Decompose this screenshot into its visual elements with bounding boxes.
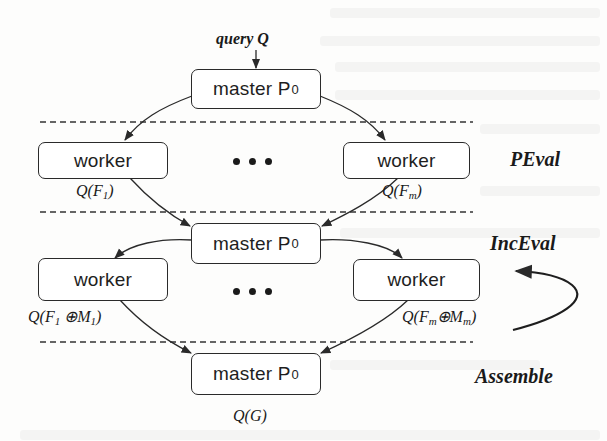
- edge-label-q-f1-m1: Q(F1 ⊕M1): [28, 307, 101, 327]
- grape-workflow-diagram: query Q master P0 worker worker PEval Q(…: [0, 0, 607, 441]
- edge-label-q-fm: Q(Fm): [382, 182, 422, 201]
- label-subscript: m: [463, 315, 471, 327]
- master-subscript: 0: [292, 367, 299, 382]
- label-subscript: m: [409, 189, 417, 201]
- edge-master-mid-to-worker-right: [320, 240, 402, 258]
- worker-label: worker: [74, 269, 132, 291]
- worker-label: worker: [74, 150, 132, 172]
- edge-master-mid-to-worker-left: [115, 240, 192, 258]
- ellipsis-inceval: [233, 288, 272, 295]
- label-suffix: ): [471, 308, 476, 325]
- edge-master-to-worker-right: [320, 96, 385, 140]
- edge-inc-worker-right-to-master: [321, 300, 408, 353]
- ellipsis-dot: [265, 288, 272, 295]
- master-node-bottom: master P0: [191, 353, 321, 395]
- master-label: master P: [213, 233, 291, 255]
- master-subscript: 0: [292, 82, 299, 97]
- edge-master-to-worker-left: [125, 96, 192, 140]
- label-prefix: Q(F: [28, 308, 55, 325]
- master-label: master P: [213, 78, 291, 100]
- worker-node-peval-right: worker: [343, 142, 470, 179]
- master-node-mid: master P0: [191, 223, 321, 264]
- ellipsis-dot: [233, 158, 240, 165]
- label-prefix: Q(F: [402, 308, 429, 325]
- master-subscript: 0: [292, 236, 299, 251]
- ellipsis-dot: [249, 288, 256, 295]
- output-label-q-g: Q(G): [233, 407, 267, 425]
- master-label: master P: [213, 363, 291, 385]
- stage-label-assemble: Assemble: [475, 365, 553, 388]
- worker-label: worker: [387, 269, 445, 291]
- label-subscript: m: [429, 315, 437, 327]
- label-mid: ⊕M: [437, 308, 463, 325]
- edge-label-q-fm-mm: Q(Fm⊕Mm): [402, 307, 476, 327]
- worker-label: worker: [377, 150, 435, 172]
- label-prefix: Q(F: [382, 182, 409, 199]
- master-node-top: master P0: [191, 69, 321, 109]
- ellipsis-peval: [233, 158, 272, 165]
- query-label: query Q: [216, 30, 269, 48]
- worker-node-inceval-left: worker: [38, 258, 168, 301]
- label-suffix: ): [417, 182, 422, 199]
- ellipsis-dot: [233, 288, 240, 295]
- label-mid: ⊕M: [60, 308, 90, 325]
- label-suffix: ): [108, 182, 113, 199]
- label-suffix: ): [96, 308, 101, 325]
- ellipsis-dot: [265, 158, 272, 165]
- worker-node-inceval-right: worker: [353, 259, 480, 301]
- edge-inc-worker-left-to-master: [120, 300, 191, 353]
- inceval-loop-arrow: [513, 271, 577, 330]
- stage-label-inceval: IncEval: [490, 232, 556, 255]
- edge-worker-left-to-master: [130, 178, 190, 226]
- label-prefix: Q(F: [76, 182, 103, 199]
- stage-label-peval: PEval: [510, 148, 560, 171]
- edge-label-q-f1: Q(F1): [76, 182, 113, 201]
- worker-node-peval-left: worker: [38, 142, 168, 179]
- ellipsis-dot: [249, 158, 256, 165]
